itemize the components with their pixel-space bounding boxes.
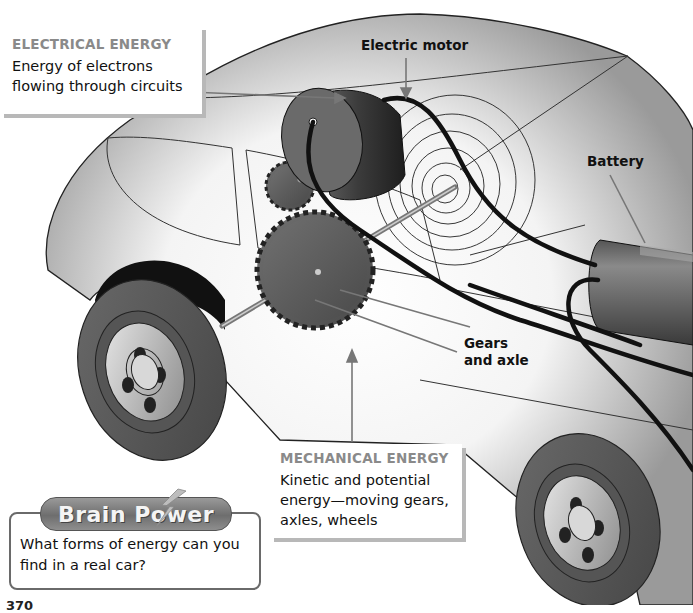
electric-motor-label: Electric motor (361, 37, 468, 54)
gears-label-line-2: and axle (464, 352, 529, 369)
electrical-energy-description: Energy of electrons flowing through circ… (12, 56, 202, 96)
electrical-energy-callout: ELECTRICAL ENERGY Energy of electrons fl… (0, 26, 202, 114)
lightning-bolt-icon (148, 487, 188, 529)
mechanical-energy-line-2: energy—moving gears, (280, 490, 462, 510)
brain-power-question: What forms of energy can you find in a r… (20, 534, 250, 576)
brain-question-line-1: What forms of energy can you (20, 534, 250, 555)
electrical-energy-title: ELECTRICAL ENERGY (12, 36, 202, 52)
battery-label: Battery (587, 153, 644, 170)
brain-power-title: Brain Power (58, 502, 214, 527)
mechanical-energy-line-1: Kinetic and potential (280, 470, 462, 490)
battery (589, 240, 693, 345)
mechanical-energy-callout: MECHANICAL ENERGY Kinetic and potential … (270, 444, 462, 538)
mechanical-energy-description: Kinetic and potential energy—moving gear… (280, 470, 462, 530)
gears-and-axle-label: Gears and axle (464, 335, 529, 369)
brain-power-badge: Brain Power (40, 497, 232, 531)
electrical-energy-line-1: Energy of electrons (12, 56, 202, 76)
gears-label-line-1: Gears (464, 335, 529, 352)
mechanical-energy-line-3: axles, wheels (280, 510, 462, 530)
mechanical-energy-title: MECHANICAL ENERGY (280, 450, 462, 466)
brain-question-line-2: find in a real car? (20, 555, 250, 576)
electrical-energy-line-2: flowing through circuits (12, 76, 202, 96)
page-number: 370 (6, 598, 33, 613)
